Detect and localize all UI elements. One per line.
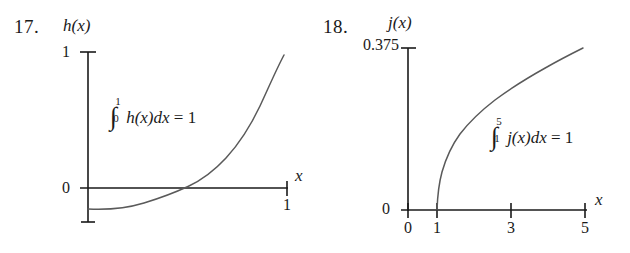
- integral-equals-17: = 1: [174, 108, 196, 127]
- integral-annotation-18: ∫51j(x)dx = 1: [491, 126, 573, 148]
- y-axis-label-17: h(x): [63, 16, 90, 36]
- y-tick-label-zero-17: 0: [57, 179, 75, 197]
- x-tick-label-1-18: 1: [428, 219, 446, 237]
- integral-equals-18: = 1: [551, 128, 573, 147]
- x-axis-label-17: x: [295, 166, 303, 186]
- y-axis-label-18: j(x): [388, 13, 412, 33]
- x-axis-label-18: x: [595, 190, 603, 210]
- integral-upper-limit-18: 5: [496, 115, 502, 127]
- integral-limits-17: 10: [118, 106, 126, 123]
- integrand-18: j(x)dx: [507, 128, 547, 147]
- x-tick-label-5-18: 5: [576, 219, 594, 237]
- integral-lower-limit-17: 0: [113, 112, 119, 124]
- integral-upper-limit-17: 1: [115, 95, 121, 107]
- y-tick-label-one-17: 1: [57, 43, 75, 61]
- integral-annotation-17: ∫10h(x)dx = 1: [110, 106, 196, 128]
- integral-lower-limit-18: 1: [494, 132, 500, 144]
- figure-number-17: 17.: [14, 16, 39, 38]
- figure-18: 18. j(x) 0.375 0 0 1 3 5 x ∫51j(x)dx = 1: [315, 0, 630, 253]
- y-tick-label-0375-18: 0.375: [351, 36, 399, 54]
- integral-limits-18: 51: [499, 126, 507, 143]
- x-tick-label-one-17: 1: [278, 196, 296, 214]
- curve-h-of-x: [88, 55, 284, 209]
- figure-number-18: 18.: [323, 16, 348, 38]
- y-tick-label-zero-18: 0: [377, 200, 395, 218]
- x-tick-label-0-18: 0: [399, 219, 417, 237]
- integrand-17: h(x)dx: [126, 108, 169, 127]
- x-tick-label-3-18: 3: [502, 219, 520, 237]
- figure-17: 17. h(x) 1 0 1 x ∫10h(x)dx = 1: [0, 0, 315, 253]
